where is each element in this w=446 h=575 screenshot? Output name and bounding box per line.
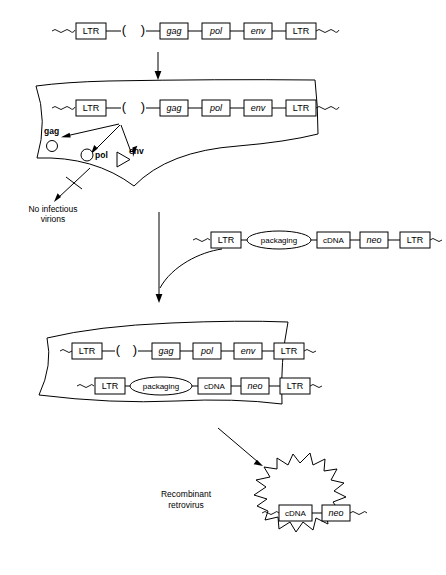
gag-protein-label: gag [44,126,59,136]
ltr-label: LTR [83,26,100,36]
neo-label: neo [366,235,381,245]
pol-label: pol [200,346,214,356]
ltr-label: LTR [79,346,96,356]
ltr-label: LTR [218,235,235,245]
no-infectious-virions-arrow [54,168,90,202]
packaging-label: packaging [143,382,179,391]
helper-provirus-row-in-cell: LTR ( ) gag pol env LTR [52,99,339,116]
pol-protein-label: pol [95,150,108,160]
deleted-packaging-left-paren: ( [116,342,121,357]
ltr-label: LTR [407,235,424,245]
arrow-to-recombinant-virion [218,428,263,466]
deleted-packaging-right-paren: ) [141,99,145,114]
env-label: env [251,103,266,113]
neo-label: neo [247,381,262,391]
gag-label: gag [158,346,173,356]
retroviral-vector-row-in-producer-cell: LTR packaging cDNA neo LTR [77,377,322,395]
ltr-label: LTR [102,381,119,391]
helper-provirus-row-top: LTR ( ) gag pol env LTR [52,22,339,39]
helper-provirus-row-in-producer-cell: LTR ( ) gag pol env LTR [60,342,316,359]
deleted-packaging-left-paren: ( [122,22,127,37]
env-label: env [241,346,256,356]
ltr-label: LTR [287,381,304,391]
cdna-label: cDNA [285,509,307,518]
protein-pol: pol [81,149,108,161]
no-infectious-virions-label-2: virions [41,214,66,224]
cdna-label: cDNA [323,236,345,245]
figure-canvas: LTR ( ) gag pol env LTR LTR ( ) [0,0,446,575]
ltr-label: LTR [281,346,298,356]
ltr-label: LTR [293,103,310,113]
cdna-label: cDNA [204,382,226,391]
ltr-label: LTR [83,103,100,113]
recombinant-retrovirus-label-2: retrovirus [168,500,203,510]
retroviral-vector-row: LTR packaging cDNA neo LTR [193,231,442,249]
packaging-label: packaging [261,236,297,245]
env-protein-label: env [129,146,144,156]
vector-transfection-curve [160,249,222,288]
gag-label: gag [166,103,181,113]
neo-label: neo [328,508,343,518]
env-label: env [251,26,266,36]
pol-label: pol [209,26,223,36]
arrow-to-producer-cell [156,212,163,303]
pol-label: pol [209,103,223,113]
no-infectious-virions-label: No infectious [28,204,77,214]
arrow-to-packaging-cell [155,52,162,80]
protein-env: env [117,146,144,167]
deleted-packaging-right-paren: ) [141,22,145,37]
recombinant-retrovirus-label: Recombinant [161,489,212,499]
deleted-packaging-left-paren: ( [122,99,127,114]
ltr-label: LTR [293,26,310,36]
protein-gag: gag [44,126,59,152]
deleted-packaging-right-paren: ) [133,342,137,357]
gag-label: gag [166,26,181,36]
